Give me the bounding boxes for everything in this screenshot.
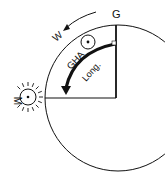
sun-body-label: M (12, 97, 23, 105)
gha-longitude-diagram: G W M GHA Long. (0, 0, 165, 178)
longitude-label: Long. (80, 60, 103, 83)
gha-arrowhead-icon (61, 86, 71, 95)
west-label: W (50, 29, 65, 44)
west-direction-arrow-icon (66, 12, 96, 28)
circled-dot-center (87, 41, 90, 44)
greenwich-label: G (112, 8, 121, 20)
gha-arc-start (112, 41, 116, 45)
